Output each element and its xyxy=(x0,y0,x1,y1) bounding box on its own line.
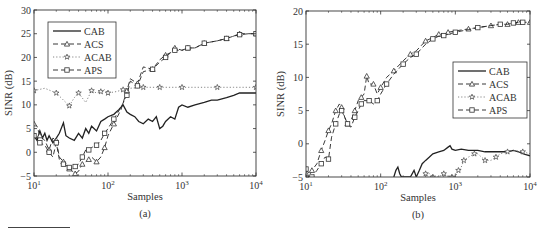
triangle-marker xyxy=(408,52,413,57)
triangle-marker xyxy=(319,148,324,153)
square-marker xyxy=(326,157,330,161)
triangle-marker xyxy=(86,157,91,162)
square-marker xyxy=(47,150,51,154)
square-marker xyxy=(345,122,349,126)
triangle-marker xyxy=(102,145,107,150)
legend-entry-aps: APS xyxy=(84,65,102,76)
square-marker xyxy=(94,143,98,147)
square-marker xyxy=(80,155,84,159)
square-marker xyxy=(476,25,480,29)
square-marker xyxy=(65,68,69,72)
square-marker xyxy=(237,32,241,36)
y-tick-label: 20 xyxy=(21,52,31,63)
triangle-marker xyxy=(352,108,357,113)
subfigure-caption: (b) xyxy=(412,209,425,221)
legend-entry-acab: ACAB xyxy=(489,92,517,103)
y-axis-label: SINR (dB) xyxy=(275,71,287,117)
legend-entry-aps: APS xyxy=(489,105,507,116)
square-marker xyxy=(334,122,338,126)
square-marker xyxy=(453,30,457,34)
triangle-marker xyxy=(326,128,331,133)
y-tick-label: 0 xyxy=(298,138,303,149)
x-tick-label: 104 xyxy=(249,179,263,191)
x-tick-label: 101 xyxy=(27,179,41,191)
y-tick-label: 5 xyxy=(26,123,31,134)
square-marker xyxy=(431,37,435,41)
x-tick-label: 103 xyxy=(175,179,189,191)
star-marker xyxy=(461,158,466,163)
square-marker xyxy=(163,55,167,59)
square-marker xyxy=(470,108,474,112)
square-marker xyxy=(54,141,58,145)
legend-entry-acs: ACS xyxy=(84,39,103,50)
square-marker xyxy=(498,22,502,26)
square-marker xyxy=(173,48,177,52)
square-marker xyxy=(367,98,371,102)
square-marker xyxy=(112,117,116,121)
star-marker xyxy=(179,84,184,89)
triangle-marker xyxy=(111,121,116,126)
square-marker xyxy=(150,67,154,71)
series-cab-line xyxy=(34,93,256,143)
square-marker xyxy=(339,108,343,112)
square-marker xyxy=(319,162,323,166)
x-tick-label: 101 xyxy=(299,180,313,192)
legend-entry-acs: ACS xyxy=(489,79,508,90)
y-tick-label: 5 xyxy=(298,105,303,116)
square-marker xyxy=(442,33,446,37)
square-marker xyxy=(67,165,71,169)
y-tick-label: 10 xyxy=(293,72,303,83)
square-marker xyxy=(511,21,515,25)
star-marker xyxy=(141,84,146,89)
star-marker xyxy=(105,90,110,95)
legend-entry-cab: CAB xyxy=(84,26,105,37)
legend-entry-acab: ACAB xyxy=(84,52,112,63)
x-axis-label: Samples xyxy=(127,191,163,202)
chart-a-sinr-vs-samples: −5051015202530101102103104SamplesSINR (d… xyxy=(0,0,273,232)
square-marker xyxy=(359,102,363,106)
footnote-rule xyxy=(8,227,70,228)
square-marker xyxy=(401,62,405,66)
square-marker xyxy=(202,41,206,45)
star-marker xyxy=(157,84,162,89)
chart-b-sinr-vs-samples: −505101520101102103104SamplesSINR (dB)(b… xyxy=(273,0,546,232)
triangle-marker xyxy=(364,73,369,78)
star-marker xyxy=(482,158,487,163)
square-marker xyxy=(521,20,525,24)
star-marker xyxy=(472,151,477,156)
square-marker xyxy=(125,93,129,97)
star-marker xyxy=(215,84,220,89)
square-marker xyxy=(186,46,190,50)
square-marker xyxy=(353,115,357,119)
x-tick-label: 103 xyxy=(449,180,463,192)
legend: CABACSACABAPS xyxy=(453,62,527,118)
triangle-marker xyxy=(423,38,428,43)
legend: CABACSACABAPS xyxy=(48,22,116,78)
y-tick-label: 10 xyxy=(21,99,31,110)
square-marker xyxy=(102,131,106,135)
square-marker xyxy=(384,82,388,86)
y-axis-label: SINR (dB) xyxy=(3,70,15,116)
triangle-marker xyxy=(80,162,85,167)
x-tick-label: 102 xyxy=(101,179,115,191)
legend-entry-cab: CAB xyxy=(489,66,510,77)
y-tick-label: 30 xyxy=(21,5,31,16)
square-marker xyxy=(375,98,379,102)
triangle-marker xyxy=(378,85,383,90)
square-marker xyxy=(38,141,42,145)
y-tick-label: 15 xyxy=(21,76,31,87)
series-acab-line xyxy=(34,87,256,106)
subfigure-caption: (a) xyxy=(139,208,151,220)
star-marker xyxy=(89,88,94,93)
square-marker xyxy=(224,36,228,40)
triangle-marker xyxy=(309,168,314,173)
square-marker xyxy=(87,148,91,152)
y-tick-label: 25 xyxy=(21,28,31,39)
x-axis-label: Samples xyxy=(400,192,436,203)
star-marker xyxy=(456,168,461,173)
star-marker xyxy=(505,149,510,154)
triangle-marker xyxy=(333,108,338,113)
triangle-marker xyxy=(436,32,441,37)
square-marker xyxy=(61,162,65,166)
x-tick-label: 102 xyxy=(374,180,388,192)
